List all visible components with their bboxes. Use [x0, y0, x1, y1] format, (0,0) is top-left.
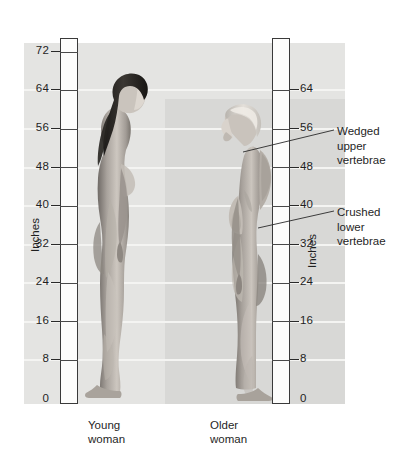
tick-label-right-48: 48 [300, 161, 313, 173]
tick-left-32 [51, 244, 60, 245]
right-ruler [272, 38, 290, 404]
tick-left-24 [51, 282, 60, 283]
tick-label-left-40: 40 [25, 199, 49, 211]
tick-left-48 [51, 167, 60, 168]
tick-label-right-64: 64 [300, 83, 313, 95]
tick-label-right-0: 0 [300, 393, 307, 405]
tick-right-56 [290, 128, 299, 129]
tick-label-right-40: 40 [300, 199, 313, 211]
left-ruler [60, 38, 78, 404]
tick-label-right-24: 24 [300, 276, 313, 288]
tick-left-56 [51, 128, 60, 129]
tick-right-64 [290, 89, 299, 90]
tick-label-right-16: 16 [300, 315, 313, 327]
height-comparison-figure: 72 64 56 48 40 32 24 16 8 0 Inches 64 56… [0, 0, 399, 455]
tick-right-40 [290, 205, 299, 206]
tick-left-40 [51, 205, 60, 206]
young-woman-illustration [64, 72, 174, 405]
tick-label-left-64: 64 [25, 83, 49, 95]
tick-label-left-0: 0 [25, 393, 49, 405]
axis-title-left: Inches [30, 218, 42, 252]
tick-right-48 [290, 167, 299, 168]
tick-left-64 [51, 89, 60, 90]
tick-left-16 [51, 321, 60, 322]
tick-label-right-56: 56 [300, 122, 313, 134]
tick-label-left-24: 24 [25, 276, 49, 288]
tick-label-left-8: 8 [25, 353, 49, 365]
tick-left-72 [51, 51, 60, 52]
caption-older-woman: Older woman [210, 418, 247, 446]
tick-label-left-16: 16 [25, 315, 49, 327]
tick-label-left-72: 72 [25, 45, 49, 57]
axis-title-right: Inches [307, 234, 319, 268]
tick-label-left-48: 48 [25, 161, 49, 173]
annotation-wedged-upper-vertebrae: Wedged upper vertebrae [337, 124, 386, 168]
annotation-crushed-lower-vertebrae: Crushed lower vertebrae [337, 205, 386, 249]
tick-left-8 [51, 359, 60, 360]
caption-young-woman: Young woman [88, 418, 125, 446]
tick-label-left-56: 56 [25, 122, 49, 134]
tick-right-32 [290, 244, 299, 245]
tick-label-right-8: 8 [300, 353, 307, 365]
tick-right-24 [290, 282, 299, 283]
tick-right-16 [290, 321, 299, 322]
tick-right-8 [290, 359, 299, 360]
